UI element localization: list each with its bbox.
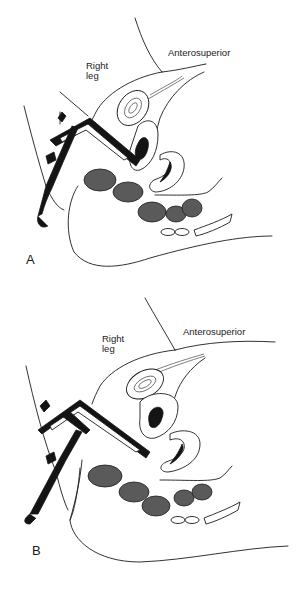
panel-letter-a: A — [26, 252, 35, 267]
anterosuperior-leader-line — [145, 298, 175, 350]
leg-leader-arrow — [60, 92, 88, 116]
right-leg-label: Right leg — [86, 61, 108, 81]
anterosuperior-leader-line — [135, 18, 162, 72]
illustration-b — [0, 292, 298, 570]
panel-b: Right leg Anterosuperior B — [0, 292, 298, 570]
right-leg-label-line2: leg — [86, 71, 108, 81]
right-leg-label: Right leg — [102, 334, 124, 354]
body-outline-upper — [162, 64, 206, 72]
panel-letter-b: B — [32, 543, 41, 558]
panel-a: Right leg Anterosuperior A — [0, 0, 298, 292]
speculum-hook — [37, 216, 48, 227]
speculum-screw — [40, 400, 50, 412]
illustration-a — [0, 0, 298, 292]
body-outline-upper — [175, 341, 275, 350]
right-leg-label-line2: leg — [102, 344, 124, 354]
caption-cropped — [0, 584, 298, 592]
buttock-outline — [68, 186, 272, 266]
anterosuperior-label: Anterosuperior — [168, 48, 230, 58]
bowel-loops — [84, 169, 202, 222]
bowel-loops — [88, 465, 212, 516]
speculum-hook — [25, 514, 36, 524]
speculum-screw — [58, 112, 66, 122]
anterosuperior-label: Anterosuperior — [183, 327, 245, 337]
